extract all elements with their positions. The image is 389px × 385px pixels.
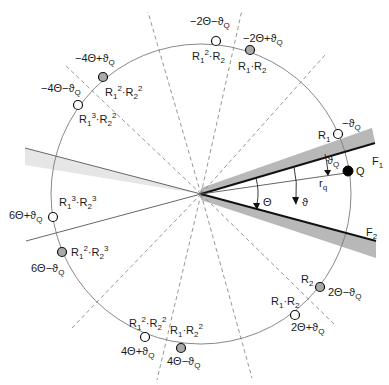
mirror-image-source-diagram: F1 F2 Q Θ ϑ ϑQ rq R1 −ϑQ R2 2Θ−ϑQ R1·R2 … (0, 0, 389, 385)
mirror-f2-line (201, 194, 376, 241)
label-r1sqr2: R12·R2 (192, 48, 225, 65)
image-point-r1r2-pos (291, 311, 300, 320)
label-r1cur2cu: R13·R23 (59, 194, 97, 211)
angle-r1r2-pos: 2Θ+ϑQ (291, 321, 324, 336)
image-point-r1 (334, 130, 343, 139)
label-q: Q (356, 165, 365, 177)
angle-r1sqr2cu: 6Θ−ϑQ (31, 262, 64, 277)
image-point-r1r2sq (177, 344, 186, 353)
label-theta: ϑ (302, 196, 308, 208)
image-point-r2 (316, 283, 325, 292)
label-rq: rq (319, 177, 327, 192)
angle-r1sqr2sq-neg: −4Θ+ϑQ (75, 52, 115, 67)
label-r1cur2sq: R13·R22 (79, 111, 117, 128)
label-r1r2sq: R1·R22 (170, 322, 203, 339)
angle-r1: −ϑQ (342, 117, 361, 132)
theta-cap-arc (256, 178, 258, 204)
label-f1: F1 (372, 155, 384, 170)
image-point-r1sqr2sq-pos (141, 333, 150, 342)
mirror-f2-band (201, 194, 376, 258)
mirror-f1-band-fill (201, 128, 372, 194)
angle-r1sqr2sq-pos: 4Θ+ϑQ (121, 345, 154, 360)
label-r1sqr2sq-pos: R12·R22 (129, 315, 167, 332)
theta-arc (294, 167, 296, 198)
label-theta-cap: Θ (263, 196, 272, 208)
image-point-r1cur2cu (49, 213, 58, 222)
label-r1r2-pos: R1·R2 (271, 295, 300, 310)
image-point-r1r2-neg (246, 46, 255, 55)
image-point-r1sqr2cu (58, 248, 67, 257)
angle-r2: 2Θ−ϑQ (328, 286, 361, 301)
angle-r1cur2cu: 6Θ+ϑQ (9, 209, 42, 224)
angle-r1r2sq: 4Θ−ϑQ (167, 355, 200, 370)
label-r1sqr2sq-neg: R12·R22 (105, 84, 143, 101)
image-point-r1cur2sq (74, 101, 83, 110)
source-point-q (343, 166, 353, 176)
theta-arrowhead (292, 197, 299, 205)
image-point-r1sqr2sq-neg (99, 73, 108, 82)
angle-r1r2-neg: −2Θ+ϑQ (243, 32, 283, 47)
angle-r1cur2sq: −4Θ−ϑQ (41, 82, 81, 97)
label-r1: R1 (318, 129, 331, 144)
label-r2: R2 (301, 273, 314, 288)
label-r1r2-neg: R1·R2 (238, 60, 267, 75)
label-r1sqr2cu: R12·R23 (71, 244, 109, 261)
angle-r1sqr2: −2Θ−ϑQ (190, 15, 230, 30)
image-point-r1sqr2 (212, 37, 221, 46)
